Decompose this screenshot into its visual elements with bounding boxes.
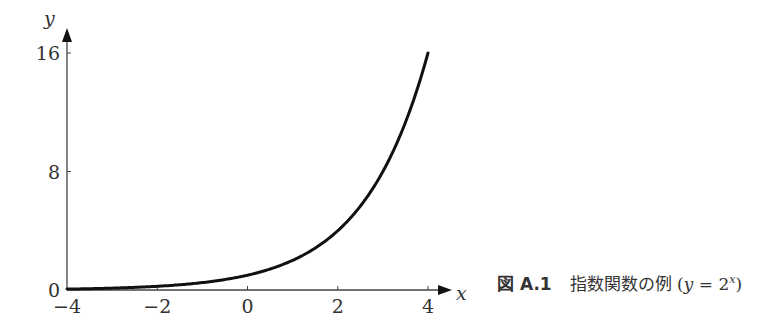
figure-caption: 図 A.1指数関数の例 (y = 2x) (497, 270, 742, 295)
series (67, 53, 428, 289)
formula-eq: = 2 (693, 274, 729, 294)
x-tick-label: 2 (332, 295, 344, 317)
figure-label: 図 A.1 (497, 274, 552, 294)
axes: x y (43, 7, 467, 304)
figure-description: 指数関数の例 (570, 274, 672, 294)
y-axis-arrow (62, 28, 72, 42)
x-tick-label: −2 (143, 295, 171, 317)
y-tick-label: 8 (48, 161, 60, 183)
formula-open: ( (677, 274, 684, 294)
y-ticks: 0816 (36, 42, 71, 301)
y-tick-label: 16 (36, 42, 60, 64)
x-tick-label: 0 (241, 295, 253, 317)
series-line (67, 53, 428, 289)
formula-lhs: y (684, 274, 694, 294)
x-tick-label: 4 (422, 295, 434, 317)
formula-close: ) (735, 274, 742, 294)
y-axis-label: y (43, 7, 55, 29)
x-axis-label: x (456, 282, 467, 304)
x-axis-arrow (438, 285, 452, 295)
y-tick-label: 0 (48, 279, 60, 301)
